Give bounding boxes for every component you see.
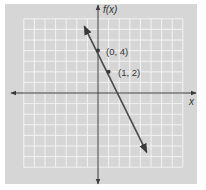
function-graph: f(x) x (0, 4) (1, 2) — [0, 0, 206, 190]
point-0-4 — [96, 49, 100, 53]
point-1-2 — [107, 70, 111, 74]
point-label-1-2: (1, 2) — [118, 67, 140, 78]
y-axis-label: f(x) — [103, 4, 117, 15]
x-axis-label: x — [188, 96, 195, 107]
point-label-0-4: (0, 4) — [106, 46, 128, 57]
